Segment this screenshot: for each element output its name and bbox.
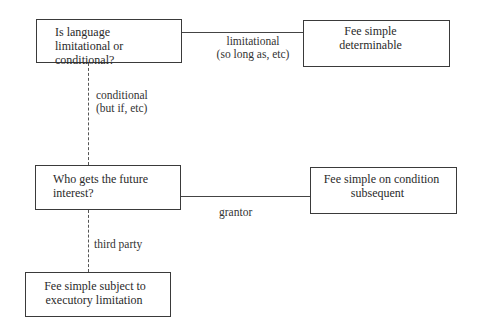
edge-q1-to-q2	[88, 63, 89, 165]
node-text-line: interest?	[53, 186, 180, 200]
node-language-question: Is language limitational or conditional?	[36, 19, 182, 63]
edge-label-line: grantor	[219, 206, 252, 219]
edge-label-line: limitational	[210, 35, 296, 48]
edge-label-limitational: limitational (so long as, etc)	[210, 35, 296, 61]
edge-label-line: (but if, etc)	[96, 102, 148, 115]
node-fee-simple-condition-subsequent: Fee simple on condition subsequent	[310, 167, 457, 214]
edge-q2-to-executory-limitation	[88, 210, 89, 272]
edge-label-grantor: grantor	[219, 206, 252, 219]
edge-label-third-party: third party	[94, 238, 142, 251]
node-text-line: Fee simple on condition	[307, 172, 456, 186]
node-fee-simple-determinable: Fee simple determinable	[303, 20, 450, 67]
edge-label-line: third party	[94, 238, 142, 251]
node-text-line: limitational or conditional?	[55, 39, 181, 67]
node-text-line: executory limitation	[18, 293, 170, 307]
edge-label-conditional: conditional (but if, etc)	[96, 89, 148, 115]
node-fee-simple-executory-limitation: Fee simple subject to executory limitati…	[25, 272, 171, 317]
node-text-line: Is language	[55, 25, 181, 39]
node-text-line: Fee simple subject to	[20, 279, 170, 293]
node-text-line: Fee simple	[292, 24, 449, 38]
edge-q2-to-condition-subsequent	[180, 196, 310, 197]
edge-label-line: (so long as, etc)	[210, 48, 296, 61]
node-text-line: determinable	[292, 38, 449, 52]
node-future-interest-question: Who gets the future interest?	[35, 165, 181, 210]
node-text-line: Who gets the future	[53, 172, 180, 186]
node-text-line: subsequent	[299, 186, 456, 200]
edge-label-line: conditional	[96, 89, 148, 102]
edge-q1-to-fee-simple-determinable	[182, 32, 303, 33]
